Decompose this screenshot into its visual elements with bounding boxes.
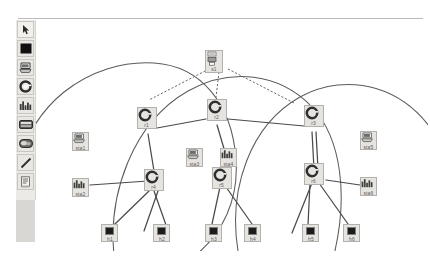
node-label: s1 (211, 67, 216, 73)
bar-chart-icon (19, 100, 32, 111)
node-label: sta5 (364, 145, 374, 151)
diagonal-line-icon (20, 157, 32, 169)
tool-chart[interactable] (17, 97, 34, 114)
ring-icon (19, 80, 32, 93)
node-label: sta4 (224, 162, 234, 168)
node-chart-sta6[interactable]: sta6 (360, 177, 377, 196)
node-device-sta5[interactable]: sta5 (360, 131, 377, 150)
bar-chart-icon (221, 149, 236, 161)
filled-square-icon (102, 225, 117, 236)
node-label: sta1 (76, 146, 86, 152)
node-device-sta3[interactable]: sta3 (186, 148, 203, 167)
diagram-canvas[interactable]: s1 r1 r2 (36, 19, 428, 251)
node-chart-sta2[interactable]: sta2 (72, 178, 89, 197)
right-cluster-arc (236, 84, 428, 251)
node-top[interactable]: s1 (205, 50, 223, 73)
filled-square-icon (206, 225, 221, 236)
node-label: r5 (220, 183, 225, 189)
node-label: sta6 (364, 191, 374, 197)
filled-square-icon (20, 43, 32, 54)
tool-router[interactable] (17, 78, 34, 95)
monitor-icon (73, 133, 88, 145)
filled-square-icon (344, 225, 359, 236)
node-label: r6 (312, 179, 317, 185)
tool-select[interactable] (17, 21, 34, 38)
toolbar-base (16, 200, 35, 242)
node-terminal-h5[interactable]: h5 (302, 224, 319, 242)
ring-icon (305, 164, 323, 178)
node-router-r4[interactable]: r4 (144, 169, 164, 191)
node-label: sta2 (76, 192, 86, 198)
tool-host[interactable] (17, 59, 34, 76)
node-label: h4 (250, 237, 256, 243)
monitor-icon (361, 132, 376, 144)
node-router-r6[interactable]: r6 (304, 163, 324, 185)
ring-icon (208, 100, 226, 114)
switch-bar-icon (19, 120, 33, 129)
application-window: s1 r1 r2 (0, 0, 430, 261)
left-cluster-arc (36, 63, 236, 251)
node-router-r2[interactable]: r2 (207, 99, 227, 121)
node-label: h5 (308, 237, 314, 243)
filled-square-icon (154, 225, 169, 236)
stack-icon (206, 51, 222, 66)
ring-icon (305, 106, 323, 120)
filled-square-icon (245, 225, 260, 236)
node-label: r4 (152, 185, 157, 191)
node-label: h2 (159, 237, 165, 243)
node-router-r1[interactable]: r1 (137, 107, 157, 129)
drawing-toolbar (16, 20, 36, 200)
node-chart-sta4[interactable]: sta4 (220, 148, 237, 167)
node-router-r3[interactable]: r3 (304, 105, 324, 127)
filled-square-icon (303, 225, 318, 236)
node-router-r5[interactable]: r5 (212, 167, 232, 189)
node-terminal-h4[interactable]: h4 (244, 224, 261, 242)
tool-cloud[interactable] (17, 135, 34, 152)
ring-icon (145, 170, 163, 184)
node-label: r2 (215, 115, 220, 121)
node-label: r1 (145, 123, 150, 129)
node-label: h6 (349, 237, 355, 243)
dashed-links (149, 69, 294, 103)
node-label: h1 (107, 237, 113, 243)
node-device-sta1[interactable]: sta1 (72, 132, 89, 151)
node-terminal-h3[interactable]: h3 (205, 224, 222, 242)
node-label: h3 (211, 237, 217, 243)
bar-chart-icon (73, 179, 88, 191)
node-label: sta3 (190, 162, 200, 168)
tool-link[interactable] (17, 154, 34, 171)
tool-text[interactable] (17, 173, 34, 190)
tool-terminal[interactable] (17, 40, 34, 57)
node-terminal-h6[interactable]: h6 (343, 224, 360, 242)
bar-chart-icon (361, 178, 376, 190)
node-terminal-h2[interactable]: h2 (153, 224, 170, 242)
tool-switch[interactable] (17, 116, 34, 133)
cursor-arrow-icon (22, 25, 30, 35)
ring-icon (138, 108, 156, 122)
ring-icon (213, 168, 231, 182)
node-label: r3 (312, 121, 317, 127)
monitor-icon (19, 62, 32, 74)
cloud-bar-icon (19, 139, 33, 148)
text-note-icon (20, 176, 31, 188)
monitor-icon (187, 149, 202, 161)
node-terminal-h1[interactable]: h1 (101, 224, 118, 242)
